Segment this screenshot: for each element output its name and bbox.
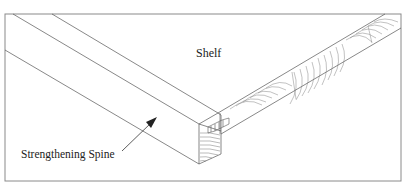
shelf-end-grain [230, 19, 398, 109]
shelf-spine-diagram: Shelf Strengthening Spine [0, 0, 407, 189]
shelf-label: Shelf [196, 46, 221, 60]
spine-end-grain [200, 133, 220, 161]
spine-label: Strengthening Spine [21, 148, 115, 161]
strengthening-spine [5, 14, 221, 164]
shelf-board-end [218, 14, 401, 134]
